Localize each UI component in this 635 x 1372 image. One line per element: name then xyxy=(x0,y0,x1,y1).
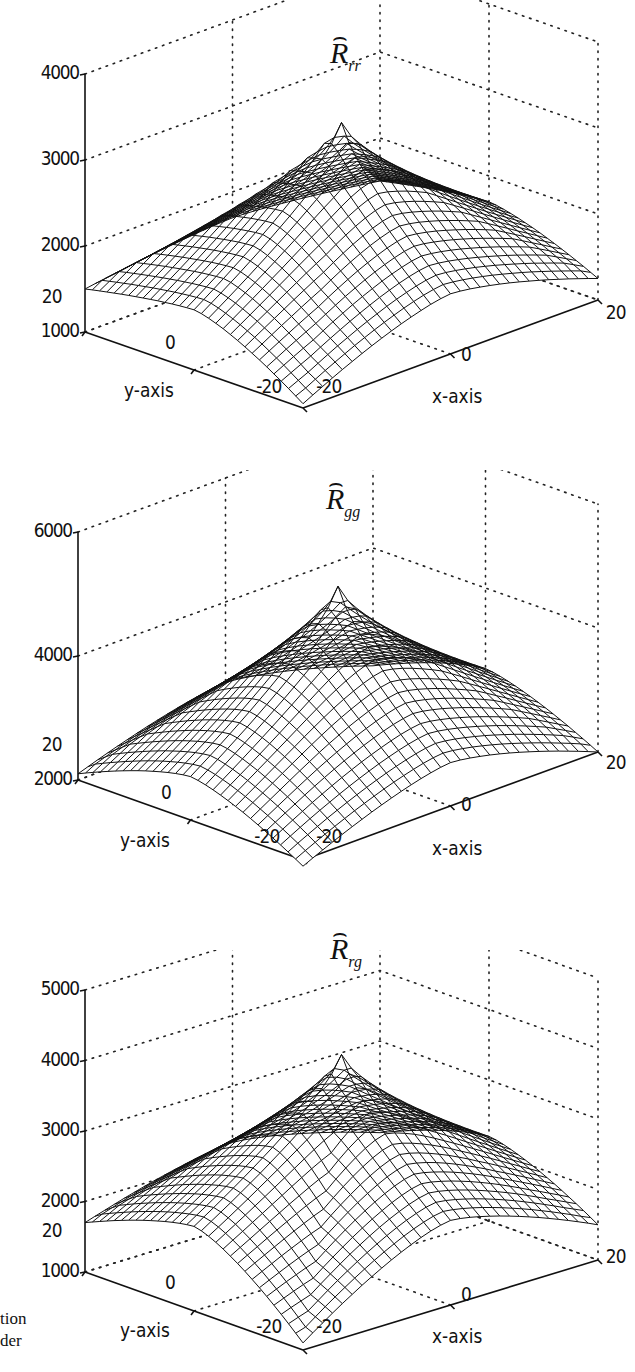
y-tick-20: 20 xyxy=(42,284,62,308)
x-axis-label: x-axis xyxy=(432,384,482,408)
y-axis-label: y-axis xyxy=(124,378,174,402)
surface-plot-rrr: ⌢Rrr 1000200030004000 20 0 -20 -20 0 20 … xyxy=(0,0,635,460)
surface-plot-rgg: ⌢Rgg 200040006000 20 0 -20 -20 0 20 y-ax… xyxy=(0,470,635,930)
x-tick-neg20: -20 xyxy=(316,824,341,848)
z-tick-label: 2000 xyxy=(41,232,79,256)
z-tick-label: 5000 xyxy=(41,976,79,1000)
x-tick-0: 0 xyxy=(461,1282,471,1306)
plot-title: ⌢Rgg xyxy=(326,482,360,521)
surface-plot-rrg: ⌢Rrg 10002000300040005000 20 0 -20 -20 0… xyxy=(0,950,635,1372)
hat-accent: ⌢ xyxy=(328,470,344,497)
z-tick-label: 1000 xyxy=(41,318,79,342)
y-tick-neg20: -20 xyxy=(254,824,279,848)
caption-line-2: der xyxy=(0,1330,26,1352)
x-tick-neg20: -20 xyxy=(316,1314,341,1338)
z-tick-label: 4000 xyxy=(41,1047,79,1071)
y-axis-label: y-axis xyxy=(120,828,170,852)
z-tick-label: 6000 xyxy=(34,518,72,542)
caption-line-1: tion xyxy=(0,1308,26,1330)
plot-canvas xyxy=(0,950,635,1372)
hat-accent: ⌢ xyxy=(332,920,348,947)
y-tick-neg20: -20 xyxy=(256,1314,281,1338)
y-tick-20: 20 xyxy=(42,1218,62,1242)
caption-fragment: tion der xyxy=(0,1308,26,1352)
x-tick-20: 20 xyxy=(606,1244,626,1268)
hat-accent: ⌢ xyxy=(332,24,348,51)
y-tick-0: 0 xyxy=(165,330,175,354)
x-tick-20: 20 xyxy=(606,750,626,774)
x-tick-20: 20 xyxy=(606,300,626,324)
z-tick-label: 3000 xyxy=(41,146,79,170)
title-subscript: gg xyxy=(344,503,360,520)
x-tick-neg20: -20 xyxy=(316,374,341,398)
y-axis-label: y-axis xyxy=(120,1318,170,1342)
z-tick-label: 4000 xyxy=(34,642,72,666)
surface-mesh xyxy=(85,123,598,404)
y-tick-0: 0 xyxy=(165,1270,175,1294)
z-tick-label: 3000 xyxy=(41,1117,79,1141)
x-tick-0: 0 xyxy=(461,342,471,366)
x-tick-0: 0 xyxy=(461,792,471,816)
x-axis-label: x-axis xyxy=(432,1324,482,1348)
z-tick-label: 4000 xyxy=(41,60,79,84)
title-subscript: rr xyxy=(348,57,360,74)
z-tick-label: 1000 xyxy=(41,1258,79,1282)
y-tick-0: 0 xyxy=(161,780,171,804)
y-tick-20: 20 xyxy=(42,732,62,756)
plot-canvas xyxy=(0,470,635,930)
y-tick-neg20: -20 xyxy=(256,374,281,398)
plot-title: ⌢Rrg xyxy=(330,932,362,971)
title-subscript: rg xyxy=(348,953,362,970)
plot-title: ⌢Rrr xyxy=(330,36,361,75)
z-tick-label: 2000 xyxy=(34,766,72,790)
x-axis-label: x-axis xyxy=(432,836,482,860)
z-tick-label: 2000 xyxy=(41,1188,79,1212)
